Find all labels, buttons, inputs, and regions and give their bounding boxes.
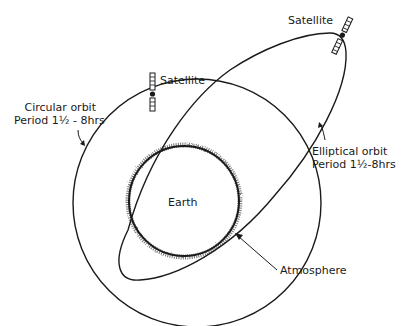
earth-label: Earth (168, 196, 198, 209)
satellite-elliptical-icon (332, 17, 353, 55)
elliptical-orbit-label-line1: Elliptical orbit (312, 145, 396, 158)
circular-orbit-label-line1: Circular orbit (14, 101, 96, 114)
satellite-circular-label: Satellite (160, 74, 205, 87)
circular-orbit-leader (78, 130, 85, 146)
atmosphere-leader (235, 233, 277, 270)
satellite-elliptical-label: Satellite (288, 14, 333, 27)
circular-orbit-label: Circular orbit Period 1½ - 8hrs (14, 101, 96, 127)
elliptical-orbit-label-line2: Period 1½-8hrs (312, 158, 396, 171)
elliptical-orbit-label: Elliptical orbit Period 1½-8hrs (312, 145, 396, 171)
atmosphere-label: Atmosphere (280, 264, 347, 277)
satellite-circular-icon (150, 73, 155, 111)
circular-orbit-label-line2: Period 1½ - 8hrs (14, 114, 96, 127)
